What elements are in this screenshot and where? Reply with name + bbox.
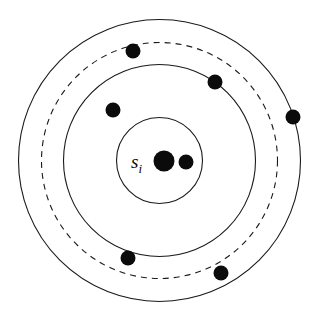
center-point-label: si — [131, 151, 142, 176]
center-secondary-dot — [179, 155, 194, 170]
center-label-subscript: i — [138, 161, 142, 176]
point-lower-left — [121, 251, 136, 266]
point-mid-left — [106, 103, 121, 118]
figure-root: si — [0, 0, 324, 326]
point-far-right — [286, 110, 301, 125]
point-upper-right — [208, 75, 223, 90]
point-lower-right — [214, 266, 229, 281]
concentric-neighborhood-diagram: si — [0, 0, 324, 326]
center-primary-dot — [154, 151, 175, 172]
point-top — [126, 44, 141, 59]
center-label-symbol: s — [131, 151, 138, 172]
